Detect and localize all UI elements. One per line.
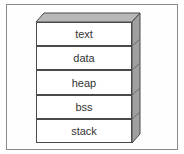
segment-data: data — [36, 46, 132, 70]
segment-label: text — [75, 28, 93, 40]
segment-label: bss — [75, 101, 92, 113]
stack-side-face — [132, 13, 140, 143]
segment-heap: heap — [36, 70, 132, 95]
segment-bss: bss — [36, 95, 132, 119]
segment-label: stack — [71, 125, 97, 137]
stack-top-face — [36, 13, 140, 22]
segment-label: data — [73, 52, 94, 64]
segment-text: text — [36, 22, 132, 46]
segment-stack: stack — [36, 119, 132, 143]
segment-label: heap — [72, 77, 96, 89]
